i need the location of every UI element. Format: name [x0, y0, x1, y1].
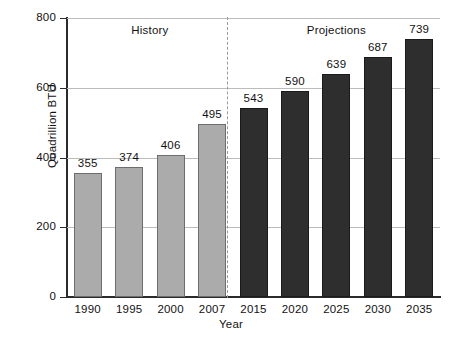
bar-1995[interactable]	[115, 167, 143, 297]
projections-caption: Projections	[233, 24, 440, 36]
bar-value-label-2000: 406	[147, 140, 195, 152]
x-axis-title: Year	[0, 318, 462, 330]
bar-1990[interactable]	[74, 173, 102, 297]
y-tick-label: 0	[4, 291, 56, 303]
bar-value-label-2020: 590	[271, 76, 319, 88]
bar-2035[interactable]	[405, 39, 433, 297]
bar-value-label-2030: 687	[354, 42, 402, 54]
y-tick-mark	[60, 88, 67, 89]
bar-2025[interactable]	[322, 74, 350, 297]
x-tick-label-2035: 2035	[393, 303, 446, 315]
y-tick-mark	[60, 297, 67, 298]
history-caption: History	[67, 24, 233, 36]
period-divider-line	[227, 17, 228, 298]
bar-2007[interactable]	[198, 124, 226, 297]
y-axis-title: Quadrillion BTU	[46, 66, 58, 186]
y-tick-mark	[60, 18, 67, 19]
bar-value-label-1995: 374	[105, 152, 153, 164]
bar-2015[interactable]	[240, 108, 268, 297]
bar-2030[interactable]	[364, 57, 392, 297]
bar-2000[interactable]	[157, 155, 185, 297]
bar-value-label-2007: 495	[188, 109, 236, 121]
y-tick-mark	[60, 227, 67, 228]
bar-chart-figure: 8006004002000 Quadrillion BTU 3553744064…	[0, 0, 462, 349]
bar-value-label-2025: 639	[312, 59, 360, 71]
y-tick-label: 200	[4, 221, 56, 233]
bar-value-label-2015: 543	[230, 93, 278, 105]
bar-2020[interactable]	[281, 91, 309, 297]
y-tick-label: 800	[4, 12, 56, 24]
